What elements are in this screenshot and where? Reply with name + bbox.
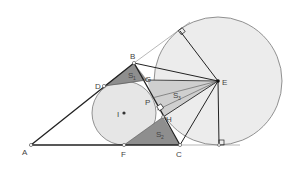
point-e	[216, 79, 220, 83]
label-p: P	[145, 98, 150, 107]
label-s3-sub: 3	[178, 95, 181, 101]
point-f	[122, 143, 125, 146]
label-f: F	[121, 150, 126, 159]
label-d: D	[95, 82, 101, 91]
point-h	[162, 116, 165, 119]
label-s1-sub: 1	[133, 75, 136, 81]
label-e: E	[222, 78, 227, 87]
point-i	[122, 111, 125, 114]
label-g: G	[145, 75, 151, 84]
point-b	[132, 61, 135, 64]
label-h: H	[166, 115, 172, 124]
label-a: A	[22, 148, 28, 157]
point-d	[102, 84, 105, 87]
label-i: I	[117, 110, 119, 119]
label-b: B	[130, 52, 135, 61]
label-c: C	[176, 150, 182, 159]
point-t2	[218, 144, 221, 147]
point-a	[29, 143, 32, 146]
label-s2-sub: 2	[161, 134, 164, 140]
point-c	[178, 143, 181, 146]
geometry-diagram: A B C D F G P H I E S 1 S 2 S 3	[0, 0, 300, 173]
